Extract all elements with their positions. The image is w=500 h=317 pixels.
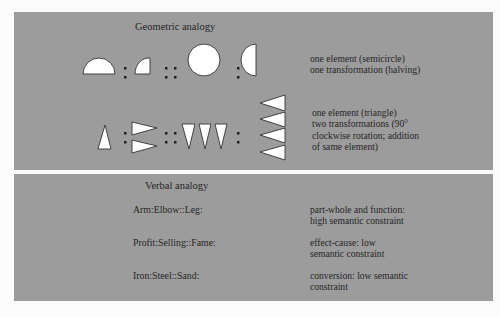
quarter-circle-icon — [135, 58, 150, 74]
triangle-right-icon — [132, 140, 157, 153]
triangle-left-icon — [260, 128, 285, 143]
verbal-analogy-description: effect-cause: low semantic constraint — [310, 237, 384, 260]
verbal-analogy-term: Profit:Selling::Fame: — [133, 237, 216, 248]
geometric-analogy-panel: Geometric analogy — [14, 12, 493, 170]
circle-icon — [188, 44, 220, 76]
triangle-right-icon — [132, 122, 157, 135]
triangle-up-icon — [98, 125, 111, 149]
triangle-down-icon — [182, 124, 195, 149]
geometric-row-2-description: one element (triangle) two transformatio… — [312, 107, 419, 152]
verbal-analogy-panel: Verbal analogy Arm:Elbow::Leg: part-whol… — [14, 174, 493, 301]
triangle-left-icon — [260, 112, 285, 127]
verbal-analogy-description: conversion: low semantic constraint — [310, 270, 408, 293]
semicircle-icon — [83, 58, 115, 74]
triangle-down-icon — [199, 124, 211, 149]
geometric-shapes — [14, 12, 493, 170]
verbal-analogy-title: Verbal analogy — [145, 180, 208, 191]
triangle-down-icon — [215, 124, 227, 149]
triangle-left-icon — [260, 95, 285, 111]
verbal-analogy-description: part-whole and function: high semantic c… — [310, 204, 405, 227]
verbal-analogy-term: Arm:Elbow::Leg: — [133, 204, 203, 215]
geometric-row-1-description: one element (semicircle) one transformat… — [310, 53, 420, 76]
half-circle-vertical-icon — [241, 44, 256, 76]
triangle-left-icon — [260, 145, 285, 160]
verbal-analogy-term: Iron:Steel::Sand: — [133, 270, 199, 281]
